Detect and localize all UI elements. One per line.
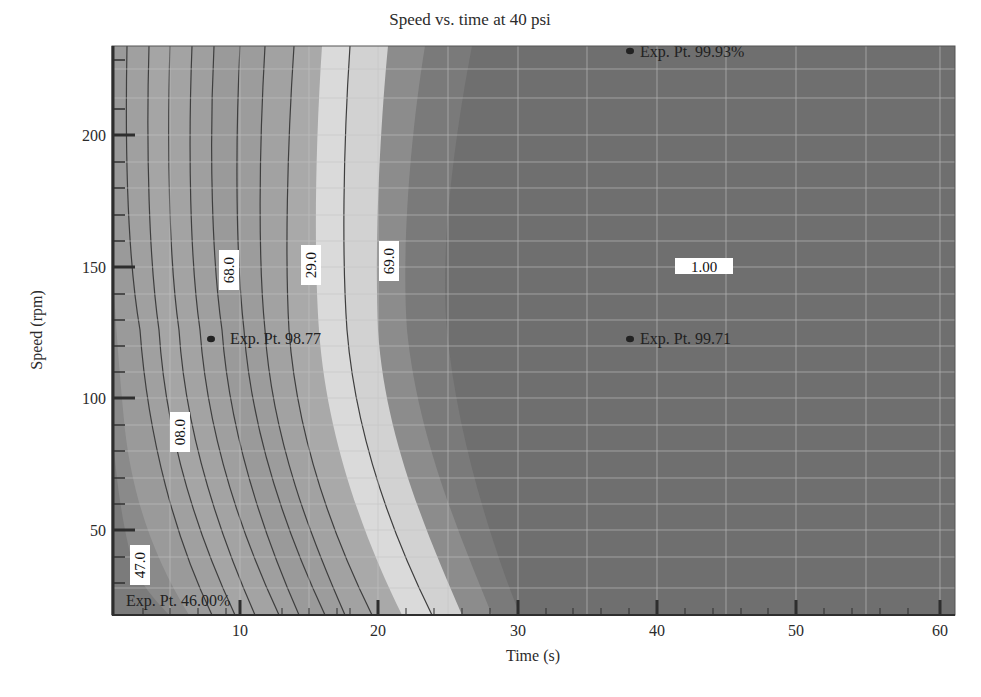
x-tick-50: 50 (788, 622, 804, 639)
svg-text:Exp. Pt. 46.00%: Exp. Pt. 46.00% (126, 592, 230, 610)
x-tick-40: 40 (649, 622, 665, 639)
y-tick-100: 100 (82, 390, 106, 407)
svg-text:Exp. Pt. 99.71: Exp. Pt. 99.71 (640, 330, 731, 348)
y-tick-50: 50 (90, 522, 106, 539)
exp-point-right: Exp. Pt. 99.71 (626, 330, 731, 348)
contour-label-100: 1.00 (675, 258, 733, 275)
x-tick-10: 10 (232, 622, 248, 639)
exp-point-bottom: Exp. Pt. 46.00% (126, 592, 230, 610)
y-axis-label: Speed (rpm) (28, 290, 46, 370)
svg-text:08.0: 08.0 (172, 419, 188, 445)
svg-text:Exp. Pt. 98.77: Exp. Pt. 98.77 (230, 330, 321, 348)
x-tick-60: 60 (932, 622, 948, 639)
contour-label-47: 47.0 (130, 545, 150, 585)
y-tick-150: 150 (82, 259, 106, 276)
contour-label-68: 68.0 (219, 250, 239, 290)
contour-label-08: 08.0 (170, 412, 190, 452)
x-axis-label: Time (s) (506, 647, 560, 665)
y-tick-200: 200 (82, 127, 106, 144)
svg-text:1.00: 1.00 (691, 259, 717, 275)
contour-label-29: 29.0 (301, 245, 321, 285)
x-tick-30: 30 (510, 622, 526, 639)
svg-text:29.0: 29.0 (303, 252, 319, 278)
svg-text:68.0: 68.0 (221, 257, 237, 283)
svg-text:69.0: 69.0 (381, 248, 397, 274)
contour-chart: Speed vs. time at 40 psi (0, 0, 981, 697)
svg-text:47.0: 47.0 (132, 552, 148, 578)
plot-area: 47.0 08.0 68.0 29.0 69.0 1.00 Exp. Pt. 9… (112, 43, 955, 615)
chart-title: Speed vs. time at 40 psi (389, 10, 551, 29)
x-tick-20: 20 (370, 622, 386, 639)
contour-label-69: 69.0 (379, 241, 399, 281)
